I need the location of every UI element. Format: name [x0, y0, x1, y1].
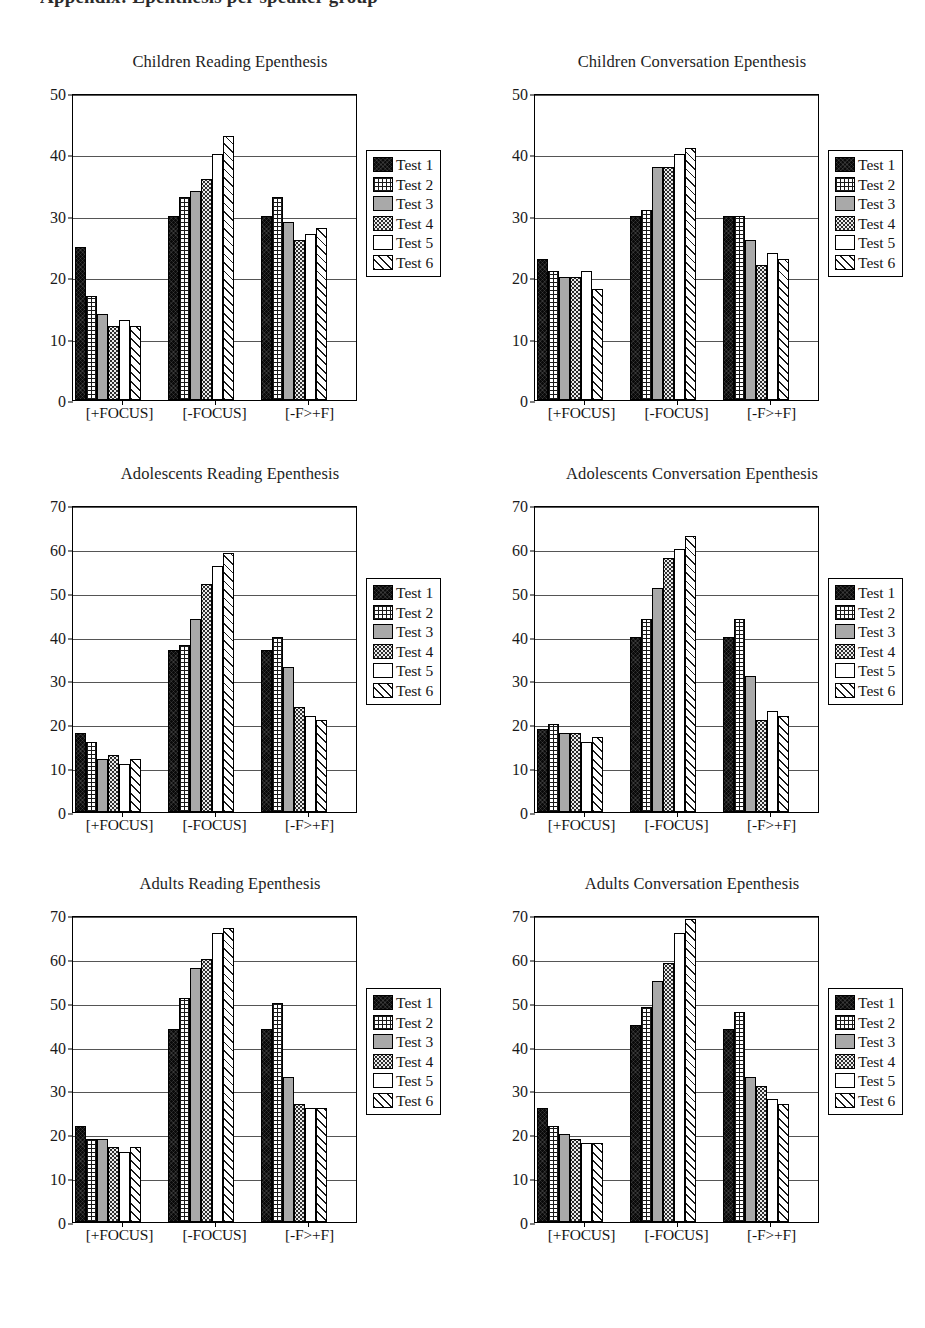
- legend-item[interactable]: Test 5: [373, 1073, 433, 1089]
- bar: [548, 724, 559, 812]
- bar: [261, 216, 272, 400]
- plot-axes: 010203040506070: [72, 916, 357, 1223]
- legend-item[interactable]: Test 4: [373, 1054, 433, 1070]
- legend-item-label: Test 2: [858, 1015, 895, 1031]
- legend-item[interactable]: Test 4: [835, 644, 895, 660]
- legend-item[interactable]: Test 6: [373, 683, 433, 699]
- legend-item[interactable]: Test 3: [835, 196, 895, 212]
- bar-group: [630, 917, 723, 1222]
- bar: [168, 1029, 179, 1222]
- bar: [86, 742, 97, 812]
- legend-item[interactable]: Test 5: [373, 663, 433, 679]
- bar: [685, 536, 696, 812]
- plot-area-wrapper: 010203040506070[+FOCUS][-FOCUS][-F>+F]Te…: [0, 500, 462, 860]
- legend-item-label: Test 4: [858, 1054, 895, 1070]
- legend-item[interactable]: Test 2: [835, 177, 895, 193]
- legend-item[interactable]: Test 2: [835, 1015, 895, 1031]
- bar: [223, 136, 234, 400]
- bar: [86, 1139, 97, 1222]
- legend-item[interactable]: Test 6: [835, 1093, 895, 1109]
- legend-item[interactable]: Test 4: [835, 1054, 895, 1070]
- y-axis-tick-label: 0: [520, 805, 528, 823]
- y-axis-tick-mark: [530, 402, 535, 403]
- bar: [641, 1007, 652, 1222]
- legend-item[interactable]: Test 2: [835, 605, 895, 621]
- plot-axes: 01020304050: [534, 94, 819, 401]
- legend-item-label: Test 6: [858, 1093, 895, 1109]
- legend-item[interactable]: Test 1: [835, 157, 895, 173]
- bar: [630, 216, 641, 400]
- chart-legend: Test 1Test 2Test 3Test 4Test 5Test 6: [366, 988, 441, 1115]
- legend-swatch-dotted-icon: [835, 216, 855, 231]
- legend-item[interactable]: Test 5: [835, 663, 895, 679]
- y-axis-tick-label: 70: [50, 908, 66, 926]
- legend-item[interactable]: Test 4: [373, 216, 433, 232]
- bar: [745, 676, 756, 812]
- bar: [119, 320, 130, 400]
- legend-item[interactable]: Test 1: [835, 585, 895, 601]
- bar: [778, 716, 789, 812]
- chart-legend: Test 1Test 2Test 3Test 4Test 5Test 6: [828, 988, 903, 1115]
- legend-item[interactable]: Test 1: [835, 995, 895, 1011]
- legend-item[interactable]: Test 6: [835, 683, 895, 699]
- legend-item-label: Test 1: [396, 157, 433, 173]
- legend-item[interactable]: Test 3: [835, 624, 895, 640]
- bar-group: [75, 507, 168, 812]
- y-axis-tick-label: 20: [512, 270, 528, 288]
- legend-item[interactable]: Test 2: [373, 177, 433, 193]
- legend-item[interactable]: Test 3: [373, 624, 433, 640]
- y-axis-tick-label: 40: [50, 147, 66, 165]
- legend-item[interactable]: Test 1: [373, 585, 433, 601]
- legend-item[interactable]: Test 5: [835, 1073, 895, 1089]
- legend-item[interactable]: Test 3: [835, 1034, 895, 1050]
- legend-item-label: Test 5: [858, 1073, 895, 1089]
- legend-item[interactable]: Test 2: [373, 605, 433, 621]
- bar: [641, 210, 652, 400]
- bar: [130, 1147, 141, 1222]
- legend-item[interactable]: Test 1: [373, 995, 433, 1011]
- x-axis-label: [+FOCUS]: [72, 404, 167, 422]
- legend-item[interactable]: Test 1: [373, 157, 433, 173]
- bar-group: [537, 95, 630, 400]
- chart-title: Children Reading Epenthesis: [30, 52, 430, 72]
- bar: [201, 959, 212, 1222]
- legend-swatch-white-icon: [373, 235, 393, 250]
- y-axis-tick-label: 10: [50, 761, 66, 779]
- y-axis-tick-label: 40: [50, 1039, 66, 1057]
- bar: [179, 998, 190, 1222]
- bar-group: [261, 507, 354, 812]
- chart-legend: Test 1Test 2Test 3Test 4Test 5Test 6: [366, 578, 441, 705]
- legend-item[interactable]: Test 3: [373, 1034, 433, 1050]
- legend-swatch-solid-black-icon: [373, 157, 393, 172]
- x-axis-labels: [+FOCUS][-FOCUS][-F>+F]: [534, 1226, 819, 1244]
- bar: [86, 296, 97, 400]
- bar-groups: [73, 507, 356, 812]
- legend-item[interactable]: Test 6: [373, 255, 433, 271]
- legend-item[interactable]: Test 2: [373, 1015, 433, 1031]
- bar: [674, 154, 685, 400]
- legend-item[interactable]: Test 3: [373, 196, 433, 212]
- legend-item[interactable]: Test 5: [835, 235, 895, 251]
- bar: [570, 733, 581, 812]
- plot-area-wrapper: 01020304050[+FOCUS][-FOCUS][-F>+F]Test 1…: [0, 88, 462, 448]
- plot-area-wrapper: 01020304050[+FOCUS][-FOCUS][-F>+F]Test 1…: [462, 88, 924, 448]
- legend-item-label: Test 1: [858, 157, 895, 173]
- legend-item[interactable]: Test 6: [835, 255, 895, 271]
- y-axis-tick-label: 30: [512, 208, 528, 226]
- legend-item[interactable]: Test 6: [373, 1093, 433, 1109]
- legend-item-label: Test 6: [858, 683, 895, 699]
- bar-group: [630, 507, 723, 812]
- x-axis-label: [-FOCUS]: [167, 404, 262, 422]
- bar: [190, 968, 201, 1222]
- bar: [674, 933, 685, 1222]
- legend-item-label: Test 2: [396, 177, 433, 193]
- y-axis-tick-label: 0: [58, 805, 66, 823]
- legend-item[interactable]: Test 4: [835, 216, 895, 232]
- x-axis-labels: [+FOCUS][-FOCUS][-F>+F]: [72, 1226, 357, 1244]
- legend-item[interactable]: Test 5: [373, 235, 433, 251]
- legend-item[interactable]: Test 4: [373, 644, 433, 660]
- bar: [179, 197, 190, 400]
- bar: [685, 148, 696, 400]
- legend-swatch-solid-black-icon: [373, 995, 393, 1010]
- bar: [316, 720, 327, 812]
